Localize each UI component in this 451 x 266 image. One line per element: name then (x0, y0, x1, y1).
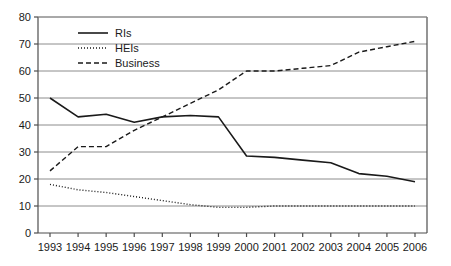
y-tick-label: 80 (19, 11, 31, 23)
y-tick-label: 70 (19, 38, 31, 50)
x-tick-label: 1996 (122, 241, 146, 253)
y-tick-label: 40 (19, 119, 31, 131)
legend-label-ris: RIs (115, 27, 132, 39)
y-tick-label: 20 (19, 173, 31, 185)
x-tick-label: 2004 (347, 241, 371, 253)
line-chart: 01020304050607080 1993199419951996199719… (0, 0, 451, 266)
chart-canvas: 01020304050607080 1993199419951996199719… (0, 0, 451, 266)
x-tick-label: 2002 (290, 241, 314, 253)
x-tick-label: 1995 (94, 241, 118, 253)
y-tick-label: 30 (19, 146, 31, 158)
y-tick-label: 10 (19, 200, 31, 212)
x-tick-label: 1998 (178, 241, 202, 253)
y-axis-tick-labels: 01020304050607080 (19, 11, 31, 239)
chart-background (0, 0, 451, 266)
x-tick-label: 1993 (38, 241, 62, 253)
x-tick-label: 2000 (234, 241, 258, 253)
legend-label-heis: HEIs (115, 42, 139, 54)
y-tick-label: 60 (19, 65, 31, 77)
y-tick-label: 50 (19, 92, 31, 104)
x-tick-label: 2005 (375, 241, 399, 253)
x-tick-label: 2006 (403, 241, 427, 253)
x-tick-label: 2001 (262, 241, 286, 253)
legend-label-business: Business (115, 57, 160, 69)
x-tick-label: 1997 (150, 241, 174, 253)
y-tick-label: 0 (25, 227, 31, 239)
x-tick-label: 1999 (206, 241, 230, 253)
x-tick-label: 2003 (319, 241, 343, 253)
x-tick-label: 1994 (66, 241, 90, 253)
